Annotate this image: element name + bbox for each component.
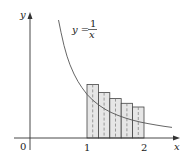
x-axis-label: x [174,141,180,152]
function-label: y = 1 x [71,18,97,40]
origin-label: 0 [20,141,26,152]
svg-text:1: 1 [90,18,96,29]
y-axis-label: y [19,9,26,20]
x-axis-arrow-icon [173,136,180,141]
tick-label-1: 1 [84,142,90,153]
svg-text:y =: y = [71,24,89,35]
svg-text:x: x [89,29,95,40]
riemann-sum-diagram: y x 0 1 2 y = 1 x [0,0,190,168]
tick-label-2: 2 [141,142,147,153]
y-axis-arrow-icon [28,12,33,19]
